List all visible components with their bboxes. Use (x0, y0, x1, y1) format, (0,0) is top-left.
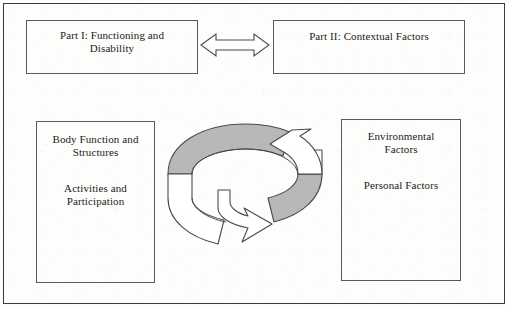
personal-factors-line-1: Personal Factors (364, 179, 439, 192)
double-headed-arrow-icon (199, 30, 271, 60)
part-i-box: Part I: Functioning and Disability (26, 20, 198, 74)
circular-cycle-arrow-icon (162, 112, 328, 252)
part-ii-box: Part II: Contextual Factors (273, 20, 465, 74)
environmental-line-1: Environmental (368, 130, 435, 143)
part-ii-line-1: Part II: Contextual Factors (309, 30, 429, 43)
body-function-line-2: Structures (73, 146, 119, 159)
body-function-line-1: Body Function and (52, 133, 138, 146)
activities-line-1: Activities and (64, 182, 127, 195)
contextual-components-box: Environmental Factors Personal Factors (341, 119, 461, 281)
part-i-line-2: Disability (90, 42, 134, 55)
activities-line-2: Participation (67, 195, 125, 208)
icf-diagram-canvas: Part I: Functioning and Disability Part … (0, 0, 510, 309)
functioning-components-box: Body Function and Structures Activities … (36, 121, 155, 283)
environmental-line-2: Factors (384, 143, 417, 156)
part-i-line-1: Part I: Functioning and (60, 29, 164, 42)
